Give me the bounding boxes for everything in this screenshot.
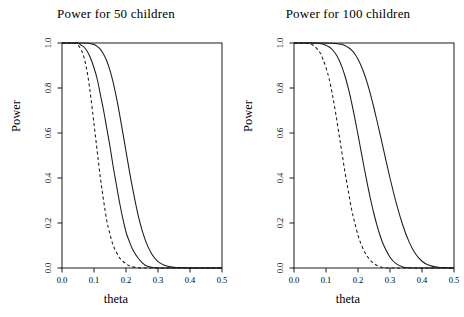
panel-power-100-children: Power for 100 children Power theta 0.00.… bbox=[232, 0, 464, 317]
y-tick-label: 0.4 bbox=[275, 167, 285, 189]
y-tick-label: 0.2 bbox=[43, 212, 53, 234]
x-tick-label: 0.5 bbox=[210, 275, 234, 285]
x-tick-label: 0.0 bbox=[50, 275, 74, 285]
x-tick-label: 0.4 bbox=[178, 275, 202, 285]
x-tick-label: 0.3 bbox=[378, 275, 402, 285]
y-tick-label: 0.4 bbox=[43, 167, 53, 189]
curve-solid-curve-right bbox=[294, 43, 454, 268]
y-tick-label: 0.6 bbox=[275, 122, 285, 144]
y-tick-label: 1.0 bbox=[43, 32, 53, 54]
x-tick-label: 0.1 bbox=[314, 275, 338, 285]
y-tick-label: 1.0 bbox=[275, 32, 285, 54]
x-tick-label: 0.3 bbox=[146, 275, 170, 285]
curve-dashed-curve bbox=[62, 43, 222, 268]
curve-dashed-curve bbox=[294, 43, 454, 268]
curve-solid-curve-right bbox=[62, 43, 222, 268]
y-tick-label: 0.8 bbox=[43, 77, 53, 99]
x-tick-label: 0.4 bbox=[410, 275, 434, 285]
curve-solid-curve-middle bbox=[294, 43, 454, 268]
x-tick-label: 0.0 bbox=[282, 275, 306, 285]
y-tick-label: 0.6 bbox=[43, 122, 53, 144]
panel-power-50-children: Power for 50 children Power theta 0.00.2… bbox=[0, 0, 232, 317]
x-tick-label: 0.2 bbox=[114, 275, 138, 285]
power-curves-figure: Power for 50 children Power theta 0.00.2… bbox=[0, 0, 464, 317]
plot-area-right bbox=[232, 0, 464, 317]
x-tick-label: 0.5 bbox=[442, 275, 464, 285]
plot-area-left bbox=[0, 0, 232, 317]
x-tick-label: 0.1 bbox=[82, 275, 106, 285]
x-tick-label: 0.2 bbox=[346, 275, 370, 285]
curve-solid-curve-middle bbox=[62, 43, 222, 268]
y-tick-label: 0.8 bbox=[275, 77, 285, 99]
y-tick-label: 0.2 bbox=[275, 212, 285, 234]
